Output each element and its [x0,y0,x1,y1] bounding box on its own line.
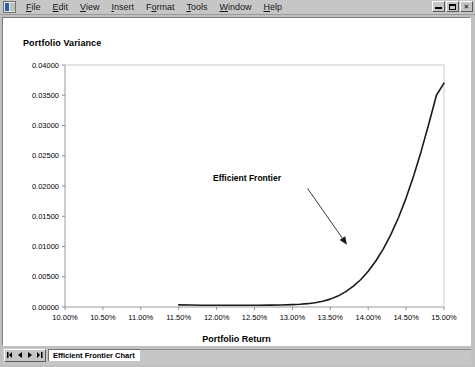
y-axis-ticks: 0.000000.005000.010000.015000.020000.025… [32,61,65,312]
sheet-tab-label: Efficient Frontier Chart [53,351,135,360]
menu-bar: File Edit View Insert Format Tools Windo… [0,0,475,15]
efficient-frontier-plot: 0.000000.005000.010000.015000.020000.025… [3,18,470,345]
efficient-frontier-annotation: Efficient Frontier [213,173,347,245]
x-tick-label: 15.00% [431,313,457,322]
menu-view[interactable]: View [74,1,105,14]
y-tick-label: 0.00500 [32,272,59,281]
x-tick-label: 12.50% [242,313,268,322]
y-tick-label: 0.01500 [32,212,59,221]
sheet-nav-buttons [4,349,46,362]
annotation-label: Efficient Frontier [213,173,282,183]
menu-insert[interactable]: Insert [105,1,140,14]
close-button[interactable]: ✕ [460,1,473,12]
sheet-tab-efficient-frontier-chart[interactable]: Efficient Frontier Chart [48,349,141,361]
menu-file[interactable]: File [20,1,47,14]
y-tick-label: 0.01000 [32,242,59,251]
y-tick-label: 0.00000 [32,303,59,312]
status-strip [2,362,471,365]
menu-format[interactable]: Format [140,1,181,14]
y-tick-label: 0.02500 [32,151,59,160]
x-tick-label: 10.50% [90,313,116,322]
next-sheet-button[interactable] [25,351,35,360]
tab-bar-filler [140,349,471,362]
x-tick-label: 14.00% [355,313,381,322]
previous-sheet-button[interactable] [15,351,25,360]
minimize-button[interactable] [432,1,445,12]
menu-window[interactable]: Window [213,1,257,14]
menu-edit[interactable]: Edit [47,1,75,14]
y-tick-label: 0.03500 [32,91,59,100]
y-tick-label: 0.02000 [32,182,59,191]
y-tick-label: 0.03000 [32,121,59,130]
x-axis-ticks: 10.00%10.50%11.00%11.50%12.00%12.50%13.0… [52,307,457,322]
chart-sheet-client: Portfolio Variance 0.000000.005000.01000… [2,17,471,346]
menu-help[interactable]: Help [257,1,288,14]
excel-workbook-icon[interactable] [3,1,16,13]
annotation-arrow-head [340,236,347,245]
x-tick-label: 10.00% [52,313,78,322]
x-tick-label: 13.00% [280,313,306,322]
y-tick-label: 0.04000 [32,61,59,70]
x-tick-label: 14.50% [393,313,419,322]
chart-canvas[interactable]: Portfolio Variance 0.000000.005000.01000… [3,18,470,345]
excel-chart-window: File Edit View Insert Format Tools Windo… [0,0,475,367]
menu-tools[interactable]: Tools [180,1,213,14]
restore-button[interactable] [446,1,459,12]
sheet-tab-bar: Efficient Frontier Chart [2,348,471,362]
x-tick-label: 11.00% [128,313,153,322]
first-sheet-button[interactable] [5,351,15,360]
x-tick-label: 11.50% [166,313,191,322]
x-tick-label: 13.50% [318,313,344,322]
x-axis-title: Portfolio Return [3,334,470,344]
x-tick-label: 12.00% [204,313,230,322]
window-controls: ✕ [432,1,473,12]
annotation-arrow-line [308,188,343,238]
last-sheet-button[interactable] [35,351,45,360]
